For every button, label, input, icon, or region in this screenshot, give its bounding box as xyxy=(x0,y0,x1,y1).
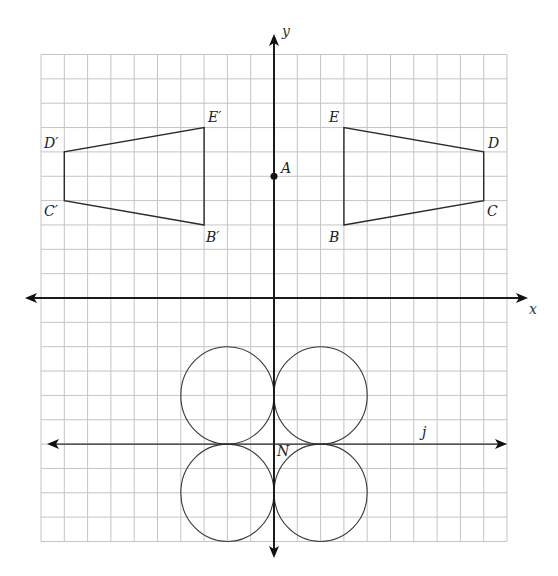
vertex-d-label: D xyxy=(487,135,499,151)
vertex-b-label: B xyxy=(328,229,339,245)
point-a-label: A xyxy=(279,160,291,176)
axes xyxy=(25,34,528,558)
point-a-dot xyxy=(271,173,278,180)
vertex-e-label: E xyxy=(328,109,339,125)
point-n-label: N xyxy=(276,443,290,459)
y-axis-label: y xyxy=(281,23,291,39)
x-axis-label: x xyxy=(529,301,537,317)
coordinate-plane: x y A j N E D C B E′ D′ C′ B′ xyxy=(0,0,558,576)
labels: x y A j N E D C B E′ D′ C′ B′ xyxy=(43,23,537,459)
line-j-label: j xyxy=(419,424,427,440)
vertex-b-prime-label: B′ xyxy=(205,229,220,245)
vertex-c-prime-label: C′ xyxy=(44,203,59,219)
vertex-c-label: C xyxy=(487,203,498,219)
vertex-d-prime-label: D′ xyxy=(43,135,59,151)
vertex-e-prime-label: E′ xyxy=(207,109,222,125)
